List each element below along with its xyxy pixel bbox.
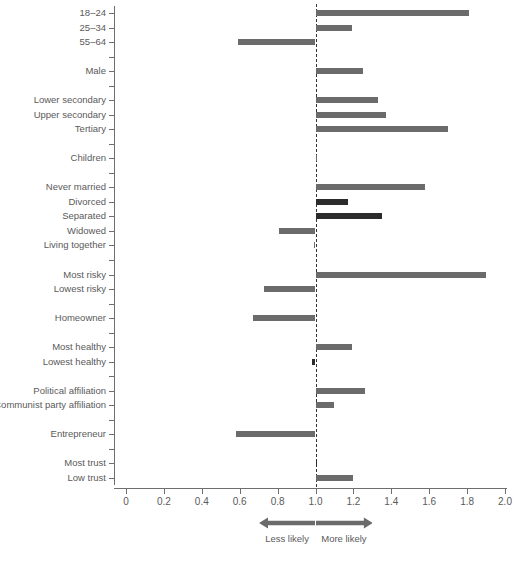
more-likely-arrow-icon	[316, 516, 373, 530]
bar-25-34	[316, 25, 352, 31]
x-axis-tick	[202, 489, 203, 494]
y-axis-tick	[109, 434, 114, 435]
y-axis-tick	[109, 289, 114, 290]
y-axis-tick	[109, 449, 114, 450]
category-label: Children	[71, 153, 106, 163]
y-axis-tick	[109, 42, 114, 43]
x-axis-tick-label: 0.8	[258, 496, 298, 507]
y-axis-line	[114, 6, 115, 485]
bar-upper-secondary	[316, 112, 386, 118]
category-label: Low trust	[67, 473, 106, 483]
category-label: Lowest healthy	[43, 357, 106, 367]
y-axis-tick	[109, 420, 114, 421]
x-axis-tick-label: 0	[106, 496, 146, 507]
y-axis-tick	[109, 144, 114, 145]
x-axis-tick-label: 0.6	[220, 496, 260, 507]
category-label: Never married	[46, 182, 106, 192]
less-likely-arrow-icon	[259, 516, 316, 530]
category-label: Political affiliation	[33, 386, 106, 396]
y-axis-tick	[109, 187, 114, 188]
y-axis-tick	[109, 275, 114, 276]
x-axis-tick	[429, 489, 430, 494]
x-axis-tick-label: 1.8	[447, 496, 487, 507]
x-axis-tick	[391, 489, 392, 494]
category-label: 55–64	[80, 37, 106, 47]
x-axis-tick	[467, 489, 468, 494]
bar-male	[316, 68, 363, 74]
x-axis-line	[114, 488, 507, 489]
y-axis-tick	[109, 318, 114, 319]
y-axis-tick	[109, 478, 114, 479]
y-axis-tick	[109, 333, 114, 334]
x-axis-tick-label: 1.2	[333, 496, 373, 507]
category-label: Most risky	[63, 270, 106, 280]
bar-most-risky	[316, 272, 487, 278]
y-axis-tick	[109, 245, 114, 246]
category-label: Living together	[44, 240, 106, 250]
category-label: Lower secondary	[34, 95, 106, 105]
category-label: Upper secondary	[34, 110, 106, 120]
y-axis-tick	[109, 376, 114, 377]
y-axis-tick	[109, 173, 114, 174]
bar-lowest-risky	[264, 286, 315, 292]
x-axis-tick-label: 1.4	[371, 496, 411, 507]
x-axis-tick-label: 0.4	[182, 496, 222, 507]
category-label: 25–34	[80, 23, 106, 33]
x-axis-tick	[164, 489, 165, 494]
bar-political-affiliation	[316, 388, 365, 394]
bar-tertiary	[316, 126, 449, 132]
bar-most-trust	[316, 460, 318, 466]
y-axis-tick	[109, 86, 114, 87]
x-axis-tick-label: 2.0	[485, 496, 520, 507]
x-axis-tick	[505, 489, 506, 494]
bar-homeowner	[253, 315, 316, 321]
bar-separated	[316, 213, 382, 219]
category-label: Entrepreneur	[51, 429, 106, 439]
category-label: Male	[85, 66, 106, 76]
x-axis-tick	[240, 489, 241, 494]
x-axis-tick	[316, 489, 317, 494]
category-label: Divorced	[69, 197, 107, 207]
y-axis-tick	[109, 405, 114, 406]
category-label: Lowest risky	[54, 284, 106, 294]
y-axis-tick	[109, 391, 114, 392]
bar-low-trust	[316, 475, 354, 481]
bar-children	[316, 155, 318, 161]
bar-never-married	[316, 184, 426, 190]
bar-communist-party-affiliation	[316, 402, 335, 408]
x-axis-tick-label: 1.6	[409, 496, 449, 507]
y-axis-tick	[109, 57, 114, 58]
x-axis-tick-label: 0.2	[144, 496, 184, 507]
y-axis-tick	[109, 231, 114, 232]
x-axis-tick	[353, 489, 354, 494]
y-axis-tick	[109, 260, 114, 261]
y-axis-tick	[109, 115, 114, 116]
category-label: Most trust	[64, 458, 106, 468]
bar-widowed	[279, 228, 315, 234]
bar-entrepreneur	[236, 431, 316, 437]
bar-lowest-healthy	[312, 359, 316, 365]
y-axis-tick	[109, 216, 114, 217]
odds-ratio-chart: 18–2425–3455–64MaleLower secondaryUpper …	[0, 0, 520, 561]
category-label: Tertiary	[75, 124, 106, 134]
bar-lower-secondary	[316, 97, 379, 103]
y-axis-tick	[109, 304, 114, 305]
category-label: Separated	[62, 211, 106, 221]
y-axis-tick	[109, 28, 114, 29]
plot-area: 18–2425–3455–64MaleLower secondaryUpper …	[0, 0, 520, 561]
x-axis-tick-label: 1.0	[296, 496, 336, 507]
y-axis-tick	[109, 362, 114, 363]
x-axis-tick	[126, 489, 127, 494]
bar-divorced	[316, 199, 348, 205]
bar-18-24	[316, 10, 469, 16]
bar-most-healthy	[316, 344, 352, 350]
y-axis-tick	[109, 347, 114, 348]
y-axis-tick	[109, 129, 114, 130]
more-likely-label: More likely	[296, 533, 393, 544]
y-axis-tick	[109, 100, 114, 101]
bar-55-64	[238, 39, 316, 45]
y-axis-tick	[109, 202, 114, 203]
y-axis-tick	[109, 158, 114, 159]
category-label: 18–24	[80, 8, 106, 18]
x-axis-tick	[278, 489, 279, 494]
